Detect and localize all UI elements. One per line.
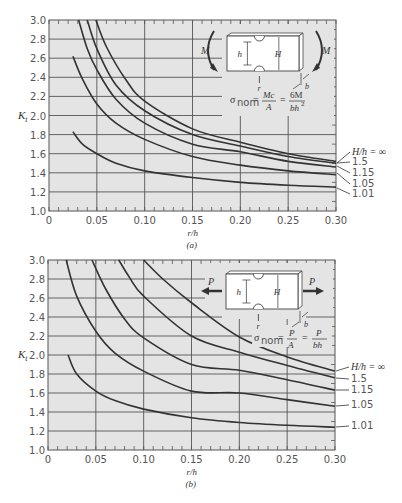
svg-text:bh: bh [290, 103, 300, 113]
legend-label: H/h = ∞ [350, 361, 385, 372]
x-tick-label: 0 [46, 215, 52, 226]
y-tick-label: 2.4 [29, 312, 45, 323]
legend-label: 1.15 [352, 167, 374, 178]
y-tick-label: 2.8 [30, 34, 46, 45]
x-tick-label: 0.05 [86, 215, 108, 226]
x-axis-label-b: r/h [187, 467, 198, 477]
svg-text:σ: σ [230, 94, 236, 105]
legend-label: 1.15 [351, 384, 373, 395]
svg-text:b: b [304, 320, 308, 329]
y-tick-label: 2.0 [29, 350, 45, 361]
y-axis-label-b: Kt [17, 348, 28, 363]
x-tick-label: 0 [45, 454, 51, 465]
y-tick-label: 1.4 [30, 168, 46, 179]
caption-a: (a) [187, 240, 198, 250]
caption-b: (b) [186, 479, 197, 489]
svg-text:H: H [274, 49, 282, 59]
y-tick-label: 2.6 [29, 293, 45, 304]
svg-text:P: P [288, 328, 295, 338]
x-tick-label: 0.15 [180, 454, 202, 465]
svg-text:Mc: Mc [262, 90, 275, 100]
y-tick-label: 1.0 [30, 206, 46, 217]
y-tick-label: 2.2 [30, 91, 46, 102]
x-tick-label: 0.25 [277, 215, 299, 226]
svg-text:=: = [278, 332, 284, 343]
legend-b: H/h = ∞1.51.151.051.01 [336, 361, 385, 431]
y-tick-label: 1.6 [30, 149, 46, 160]
svg-text:h: h [237, 49, 242, 59]
svg-text:P: P [315, 328, 322, 338]
legend-label: 1.01 [351, 420, 373, 431]
x-tick-label: 0.20 [228, 454, 250, 465]
legend-label: 1.5 [351, 373, 367, 384]
y-tick-label: 1.8 [29, 369, 45, 380]
svg-text:A: A [287, 340, 294, 350]
force-label-right: P [308, 276, 315, 287]
x-tick-label: 0.30 [325, 215, 347, 226]
y-axis-label-a: Kt [17, 109, 28, 124]
svg-text:2: 2 [301, 100, 305, 108]
stress-concentration-charts: 1.01.21.41.61.82.02.22.42.62.83.000.050.… [0, 0, 402, 503]
y-tick-label: 2.0 [30, 111, 46, 122]
x-tick-label: 0.05 [85, 454, 107, 465]
svg-text:H: H [273, 287, 281, 297]
y-tick-label: 1.2 [30, 187, 46, 198]
legend-label: 1.05 [351, 399, 373, 410]
y-tick-label: 2.8 [29, 274, 45, 285]
svg-text:h: h [236, 287, 241, 297]
y-tick-label: 2.6 [30, 53, 46, 64]
svg-text:bh: bh [313, 340, 323, 350]
svg-text:6M: 6M [290, 90, 303, 100]
force-label-left: P [207, 276, 214, 287]
y-tick-label: 1.8 [30, 130, 46, 141]
y-tick-label: 2.4 [30, 72, 46, 83]
moment-label-right: M [321, 45, 331, 56]
chart-panel-a: 1.01.21.41.61.82.02.22.42.62.83.000.050.… [17, 15, 386, 250]
x-tick-label: 0.10 [133, 454, 155, 465]
svg-text:σ: σ [254, 332, 260, 343]
moment-label-left: M [200, 45, 210, 56]
y-tick-label: 3.0 [30, 15, 46, 26]
legend-label: 1.01 [352, 188, 374, 199]
y-tick-label: 1.6 [29, 388, 45, 399]
x-tick-label: 0.25 [276, 454, 298, 465]
svg-text:=: = [253, 94, 259, 105]
x-tick-label: 0.10 [134, 215, 156, 226]
x-axis-label-a: r/h [188, 228, 199, 238]
x-tick-label: 0.15 [181, 215, 203, 226]
legend-a: H/h = ∞1.51.151.051.01 [337, 146, 386, 199]
svg-text:=: = [302, 332, 308, 343]
svg-text:A: A [265, 102, 272, 112]
y-tick-label: 2.2 [29, 331, 45, 342]
legend-label: 1.5 [352, 156, 368, 167]
svg-text:=: = [280, 94, 286, 105]
x-tick-label: 0.20 [229, 215, 251, 226]
y-tick-label: 3.0 [29, 255, 45, 266]
y-tick-label: 1.2 [29, 426, 45, 437]
x-tick-label: 0.30 [324, 454, 346, 465]
svg-text:b: b [305, 82, 309, 91]
y-tick-label: 1.4 [29, 407, 45, 418]
y-tick-label: 1.0 [29, 445, 45, 456]
chart-panel-b: 1.01.21.41.61.82.02.22.42.62.83.000.050.… [17, 255, 385, 489]
